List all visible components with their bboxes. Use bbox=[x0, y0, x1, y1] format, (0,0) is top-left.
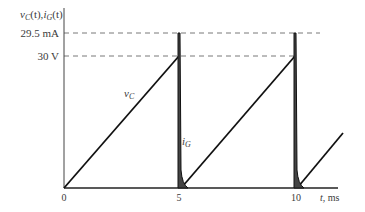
y-axis-title: vC(t),iG(t) bbox=[20, 8, 63, 22]
ref-label-voltage: 30 V bbox=[38, 50, 60, 62]
ref-label-current: 29.5 mA bbox=[21, 27, 60, 39]
series-label-vc: vC bbox=[124, 87, 135, 101]
vc-ramp-2 bbox=[182, 56, 295, 187]
ig-pulse-2 bbox=[294, 33, 304, 188]
x-tick-5: 5 bbox=[177, 192, 182, 203]
x-tick-10: 10 bbox=[291, 192, 301, 203]
x-axis-title: t, ms bbox=[320, 192, 340, 203]
series-label-ig: iG bbox=[182, 135, 191, 149]
chart: vC(t),iG(t) 29.5 mA 30 V vC iG 0 5 10 t,… bbox=[0, 0, 365, 212]
x-tick-0: 0 bbox=[62, 192, 67, 203]
vc-ramp-3 bbox=[298, 133, 343, 187]
vc-ramp-1 bbox=[64, 56, 179, 188]
